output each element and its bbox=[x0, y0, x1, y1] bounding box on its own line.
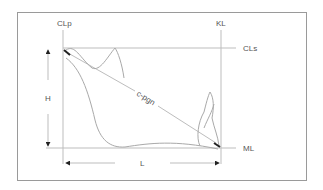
l-label: L bbox=[140, 159, 145, 168]
h-label: H bbox=[45, 94, 51, 103]
cpgn-start-marker bbox=[64, 50, 70, 55]
tooth-measurement-diagram: CLp KL CLs ML H L c-pgn bbox=[0, 0, 323, 190]
crown-curve-top bbox=[66, 48, 124, 78]
cpgn-label: c-pgn bbox=[135, 89, 157, 107]
ml-label: ML bbox=[243, 144, 255, 153]
outline-curve-main bbox=[66, 58, 218, 149]
cls-label: CLs bbox=[243, 44, 257, 53]
cpgn-line-b bbox=[158, 106, 216, 143]
kl-label: KL bbox=[216, 19, 226, 28]
clp-label: CLp bbox=[57, 19, 72, 28]
